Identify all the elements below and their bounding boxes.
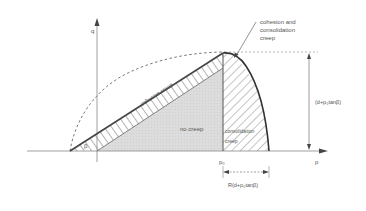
- consolidation-creep-label-1: consolidation: [225, 128, 254, 134]
- annotation-leader: [234, 22, 256, 58]
- horizontal-dimension-label: R(d+p₀tanβ): [228, 182, 258, 188]
- consolidation-creep-label-2: creep: [225, 138, 238, 144]
- horizontal-dimension-arrow: [223, 166, 269, 178]
- p0-label: p₀: [219, 159, 225, 165]
- no-creep-label: no creep: [180, 126, 204, 132]
- vertical-dimension-label: (d+p₀tanβ): [315, 99, 341, 105]
- cohesion-consolidation-creep-label-1: cohesion and: [260, 19, 296, 25]
- vertical-dimension-arrow: [307, 53, 311, 150]
- cap-model-diagram: q p p₀ β cohesion and consolidation cree…: [0, 0, 366, 211]
- p-axis-label: p: [315, 159, 319, 165]
- q-axis-label: q: [91, 28, 94, 34]
- cohesion-consolidation-creep-label-2: consolidation: [260, 27, 295, 33]
- beta-label: β: [84, 143, 88, 149]
- cohesion-consolidation-creep-label-3: creep: [260, 35, 276, 41]
